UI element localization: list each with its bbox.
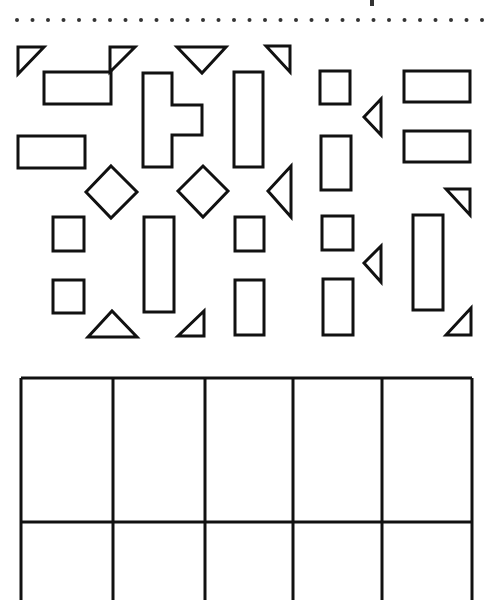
dot xyxy=(449,18,453,22)
dot xyxy=(31,18,35,22)
right-triangle-shape xyxy=(446,308,471,335)
diamond-shape xyxy=(86,166,137,218)
triangle-left-shape xyxy=(268,166,291,217)
dot xyxy=(186,18,190,22)
square-shape xyxy=(53,280,84,313)
dot xyxy=(310,18,314,22)
dot xyxy=(170,18,174,22)
grid-cell[interactable] xyxy=(293,522,382,600)
dot xyxy=(387,18,391,22)
dot xyxy=(341,18,345,22)
square-shape xyxy=(235,217,264,251)
right-triangle-shape xyxy=(18,47,44,74)
dot xyxy=(263,18,267,22)
square-shape xyxy=(53,217,84,251)
dot xyxy=(480,18,484,22)
worksheet-page xyxy=(0,0,493,600)
triangle-left-shape xyxy=(364,99,381,135)
dot xyxy=(465,18,469,22)
grid-cell[interactable] xyxy=(205,378,293,522)
dot xyxy=(108,18,112,22)
grid-cell[interactable] xyxy=(205,522,293,600)
square-shape xyxy=(322,216,353,250)
dot xyxy=(62,18,66,22)
dot xyxy=(93,18,97,22)
right-triangle-shape xyxy=(446,189,470,215)
dot xyxy=(325,18,329,22)
rectangle-shape xyxy=(235,280,264,335)
grid-cell[interactable] xyxy=(293,378,382,522)
glyph-fragment xyxy=(370,0,374,6)
grid-cell[interactable] xyxy=(382,522,472,600)
grid-cell[interactable] xyxy=(113,522,205,600)
dot xyxy=(139,18,143,22)
grid-cell[interactable] xyxy=(113,378,205,522)
right-triangle-shape xyxy=(178,311,204,336)
square-shape xyxy=(320,71,350,104)
rectangle-shape xyxy=(234,72,263,167)
answer-grid[interactable] xyxy=(21,378,472,600)
triangle-down-shape xyxy=(177,47,226,73)
grid-cell[interactable] xyxy=(21,378,113,522)
dot xyxy=(279,18,283,22)
dot xyxy=(294,18,298,22)
dot xyxy=(124,18,128,22)
right-triangle-shape xyxy=(110,47,135,72)
rectangle-shape xyxy=(321,136,351,190)
triangle-left-shape xyxy=(364,246,381,282)
grid-cell[interactable] xyxy=(21,522,113,600)
dot xyxy=(201,18,205,22)
dotted-writing-line xyxy=(15,18,484,22)
t-shape-shape xyxy=(143,73,202,167)
right-triangle-shape xyxy=(266,46,290,72)
rectangle-shape xyxy=(44,72,111,104)
dot xyxy=(155,18,159,22)
shape-collection xyxy=(18,46,471,337)
rectangle-shape xyxy=(404,131,470,162)
dot xyxy=(217,18,221,22)
rectangle-shape xyxy=(323,279,353,335)
rectangle-shape xyxy=(413,215,443,310)
worksheet-canvas xyxy=(0,0,493,600)
dot xyxy=(15,18,19,22)
rectangle-shape xyxy=(144,217,174,312)
dot xyxy=(356,18,360,22)
dot xyxy=(372,18,376,22)
dot xyxy=(434,18,438,22)
dot xyxy=(418,18,422,22)
triangle-up-shape xyxy=(88,311,137,337)
cropped-title-glyph xyxy=(370,0,374,6)
dot xyxy=(46,18,50,22)
grid-cell[interactable] xyxy=(382,378,472,522)
dot xyxy=(77,18,81,22)
dot xyxy=(232,18,236,22)
rectangle-shape xyxy=(18,136,85,168)
diamond-shape xyxy=(178,166,228,217)
rectangle-shape xyxy=(404,71,470,102)
dot xyxy=(248,18,252,22)
dot xyxy=(403,18,407,22)
